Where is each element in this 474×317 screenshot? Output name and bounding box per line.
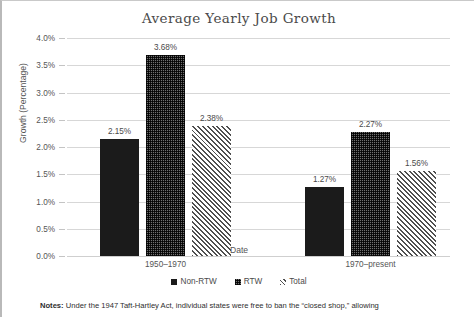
gridline <box>67 38 450 39</box>
legend-label: Total <box>289 277 306 286</box>
y-axis-tick-mark <box>59 65 65 66</box>
notes-label: Notes: <box>40 301 64 310</box>
y-axis-tick-label: 1.5% <box>36 170 55 179</box>
y-axis-tick-label: 0.5% <box>36 224 55 233</box>
x-axis-tick-label: 1950–1970 <box>145 260 186 269</box>
bar-value-label: 2.15% <box>108 127 131 136</box>
bar-value-label: 2.38% <box>200 114 223 123</box>
y-axis-tick-mark <box>59 174 65 175</box>
bar-total-1 <box>192 126 231 256</box>
x-axis-title: Date <box>5 245 473 255</box>
chart-legend: Non-RTWRTWTotal <box>5 277 473 286</box>
y-axis-tick-label: 2.5% <box>36 115 55 124</box>
y-axis-tick-label: 2.0% <box>36 143 55 152</box>
notes-block: Notes: Under the 1947 Taft-Hartley Act, … <box>40 301 460 311</box>
y-axis-tick-label: 3.0% <box>36 88 55 97</box>
gridline <box>67 93 450 94</box>
y-axis-tick-mark <box>59 38 65 39</box>
legend-swatch-icon <box>235 279 241 285</box>
legend-swatch-icon <box>171 279 177 285</box>
bar-value-label: 2.27% <box>359 120 382 129</box>
legend-item-non-rtw[interactable]: Non-RTW <box>171 277 216 286</box>
y-axis-tick-labels: 4.0%3.5%3.0%2.5%2.0%1.5%1.0%0.5%0.0% <box>5 38 65 256</box>
y-axis-tick-mark <box>59 256 65 257</box>
bar-value-label: 1.27% <box>313 175 336 184</box>
y-axis-tick-mark <box>59 229 65 230</box>
legend-item-rtw[interactable]: RTW <box>235 277 263 286</box>
notes-line-1: Under the 1947 Taft-Hartley Act, individ… <box>66 301 379 310</box>
gridline <box>67 65 450 66</box>
page-frame: Average Yearly Job Growth Growth (Percen… <box>0 0 474 317</box>
y-axis-tick-mark <box>59 120 65 121</box>
y-axis-tick-label: 3.5% <box>36 61 55 70</box>
x-axis-tick-labels: 1950–19701970–present <box>67 260 450 274</box>
legend-label: RTW <box>244 277 263 286</box>
bar-total-2 <box>397 171 436 256</box>
y-axis-tick-mark <box>59 202 65 203</box>
y-axis-tick-label: 1.0% <box>36 197 55 206</box>
y-axis-tick-marks <box>59 38 67 256</box>
y-axis-tick-mark <box>59 93 65 94</box>
y-axis-tick-mark <box>59 147 65 148</box>
x-axis-tick-label: 1970–present <box>345 260 395 269</box>
bar-rtw-2 <box>351 132 390 256</box>
legend-item-total[interactable]: Total <box>280 277 306 286</box>
gridline <box>67 256 450 257</box>
legend-label: Non-RTW <box>180 277 216 286</box>
bar-value-label: 3.68% <box>154 43 177 52</box>
y-axis-tick-label: 4.0% <box>36 34 55 43</box>
bar-non-rtw-1 <box>100 139 139 256</box>
gridline <box>67 120 450 121</box>
chart-title: Average Yearly Job Growth <box>5 10 473 26</box>
legend-swatch-icon <box>280 279 286 285</box>
bar-rtw-1 <box>146 55 185 256</box>
chart-card: Average Yearly Job Growth Growth (Percen… <box>5 2 473 287</box>
bar-value-label: 1.56% <box>405 159 428 168</box>
plot-area: 2.15%3.68%2.38%1.27%2.27%1.56% <box>67 38 450 256</box>
